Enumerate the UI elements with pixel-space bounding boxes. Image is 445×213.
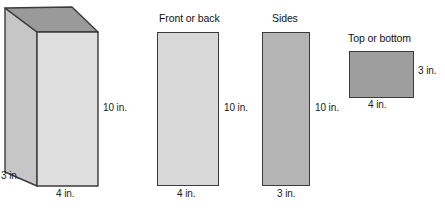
solid-depth-label: 3 in.	[1, 171, 19, 181]
front-or-back-title: Front or back	[159, 13, 220, 24]
top-or-bottom-rect	[349, 51, 414, 98]
top-or-bottom-title: Top or bottom	[348, 33, 411, 44]
rectangular-prism-solid	[0, 0, 140, 200]
sides-height-label: 10 in.	[315, 103, 339, 113]
sides-width-label: 3 in.	[277, 189, 295, 199]
front-or-back-rect	[157, 32, 219, 186]
top-or-bottom-width-label: 4 in.	[368, 100, 386, 110]
top-or-bottom-height-label: 3 in.	[418, 66, 436, 76]
sides-rect	[262, 32, 310, 186]
left-face	[5, 8, 37, 186]
front-or-back-height-label: 10 in.	[224, 103, 248, 113]
solid-height-label: 10 in.	[103, 103, 127, 113]
sides-title: Sides	[272, 13, 298, 24]
diagram-canvas: 10 in. 4 in. 3 in. Front or back 10 in. …	[0, 0, 445, 213]
front-face	[37, 32, 98, 186]
front-or-back-width-label: 4 in.	[177, 189, 195, 199]
solid-width-label: 4 in.	[56, 189, 74, 199]
